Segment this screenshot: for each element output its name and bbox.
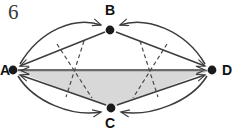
edge-b-to-d: [116, 32, 205, 66]
vertex-c[interactable]: [107, 104, 116, 113]
vertex-d[interactable]: [208, 66, 217, 75]
vertex-label-a: A: [0, 63, 10, 77]
edge-arc-a-to-b: [20, 22, 101, 64]
graph-diagram: [0, 0, 236, 132]
edge-arc-d-to-b: [120, 22, 205, 64]
vertex-b[interactable]: [106, 26, 115, 35]
figure-container: 6 A B C D: [0, 0, 236, 132]
vertex-label-d: D: [222, 63, 232, 77]
vertex-label-b: B: [105, 3, 115, 17]
figure-number: 6: [8, 2, 19, 23]
shaded-triangle-region: [13, 70, 212, 108]
edge-b-to-a: [20, 32, 105, 66]
vertex-label-c: C: [105, 116, 115, 130]
